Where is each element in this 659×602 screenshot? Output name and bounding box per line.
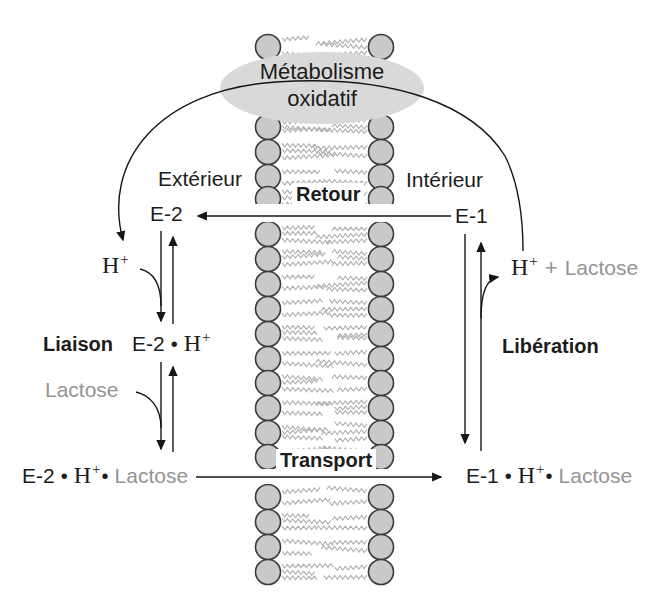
lipid-head (256, 371, 281, 396)
lipid-head (369, 396, 394, 421)
h-charge: + (202, 329, 210, 345)
lipid-tail (282, 337, 323, 342)
lipid-tail (332, 124, 367, 129)
lipid-tail (282, 325, 314, 329)
plus-sign: + (545, 255, 558, 280)
metabolism-label: Métabolisme oxidatif (222, 58, 422, 112)
lipid-head (369, 222, 394, 247)
h-plus-entry-curve (140, 269, 161, 306)
lipid-tail (282, 330, 317, 335)
lipid-tail (282, 435, 323, 440)
liberation-label: Libération (502, 336, 599, 356)
lipid-tail (316, 38, 367, 46)
lipid-tail (282, 539, 333, 546)
lipid-tail (282, 225, 314, 230)
lipid-head (369, 272, 394, 297)
lipid-head (369, 421, 394, 446)
species-h: H (518, 462, 535, 488)
lipid-tail (337, 255, 367, 260)
liaison-label: Liaison (43, 334, 113, 354)
lipid-head (369, 510, 394, 535)
h-charge: + (120, 251, 128, 267)
lipid-tail (282, 275, 314, 279)
lipid-head (256, 322, 281, 347)
retour-label: Retour (292, 183, 364, 205)
lipid-tail (282, 498, 331, 505)
lipid-tail (282, 170, 320, 174)
species-h: H (511, 254, 528, 280)
h-plus-left-label: H+ (102, 253, 129, 277)
species-lactose: Lactose (115, 464, 189, 487)
lipid-tail (282, 375, 323, 382)
lipid-tail (329, 299, 367, 304)
lipid-tail (321, 546, 367, 553)
lipid-head (369, 35, 394, 60)
lipid-tail (282, 570, 314, 576)
lipid-tail (282, 526, 317, 530)
lipid-tail (282, 36, 309, 42)
lipid-head (256, 485, 281, 510)
lipid-tail (324, 326, 367, 331)
retour-gap-band (250, 204, 396, 222)
lipid-tail (282, 250, 323, 254)
bullet: • (505, 465, 512, 487)
lipid-tail (332, 227, 367, 231)
lipid-tail (282, 564, 333, 568)
lipid-head (369, 485, 394, 510)
lactose-entry-curve (136, 392, 161, 428)
lipid-tail (332, 250, 367, 256)
lipid-tail (321, 307, 367, 311)
h-charge: + (529, 253, 537, 269)
bullet: • (102, 465, 109, 487)
lipid-tail (335, 169, 367, 174)
lipid-head (256, 510, 281, 535)
lipid-head (369, 371, 394, 396)
lipid-head (369, 347, 394, 372)
lipid-head (256, 247, 281, 272)
lipid-head (256, 421, 281, 446)
lactose-left-label: Lactose (45, 379, 119, 400)
metabolism-line1: Métabolisme (222, 58, 422, 85)
lipid-tail (282, 411, 323, 416)
state-e2-label: E-2 (150, 203, 183, 224)
metabolism-line2: oxidatif (222, 85, 422, 112)
lipid-tail (337, 387, 367, 392)
lipid-tail (282, 387, 333, 393)
lipid-tail (327, 239, 368, 244)
lipid-head (369, 247, 394, 272)
lipid-tail (282, 260, 333, 267)
h-charge: + (92, 461, 100, 477)
species-h: H (184, 330, 201, 356)
lipid-tail (335, 405, 367, 411)
lipid-tail (324, 575, 367, 579)
lipid-tail (332, 375, 367, 380)
lipid-head (369, 322, 394, 347)
lipid-head (369, 297, 394, 322)
species-lactose: Lactose (565, 256, 639, 279)
lipid-tail (282, 143, 317, 147)
lipid-tail (332, 261, 367, 265)
lipid-tail (327, 486, 368, 492)
bullet: • (61, 465, 68, 487)
lipid-tail (316, 526, 367, 530)
species-h: H (102, 252, 119, 278)
lipid-tail (282, 311, 331, 317)
lipid-tail (332, 540, 367, 544)
lipid-tail (335, 411, 367, 415)
lipid-head (256, 297, 281, 322)
lipid-head (256, 140, 281, 165)
lipid-tail (282, 351, 331, 355)
lipid-head (369, 140, 394, 165)
lipid-tail (316, 233, 367, 239)
lipid-tail (282, 299, 323, 305)
lipid-tail (335, 422, 367, 428)
lipid-tail (282, 285, 325, 290)
state-e1-h-lactose-label: E-1•H+•Lactose (466, 463, 632, 487)
lipid-head (256, 535, 281, 560)
h-plus-lactose-right-label: H++Lactose (511, 255, 638, 279)
lipid-tail (337, 276, 367, 280)
lipid-tail (282, 518, 331, 524)
lipid-tail (282, 252, 325, 259)
bullet: • (546, 465, 553, 487)
release-curve-arrow (481, 277, 498, 318)
